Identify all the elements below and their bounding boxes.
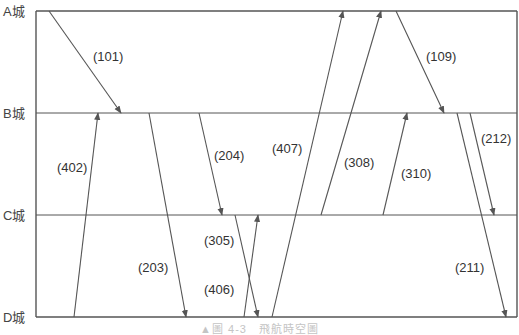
city-label: C城 [3, 208, 25, 223]
flight-label: (310) [401, 166, 431, 181]
city-label: A城 [3, 4, 25, 19]
flight-label: (204) [214, 148, 244, 163]
flight-label: (407) [272, 141, 302, 156]
flight-label: (402) [57, 160, 87, 175]
flight-path [272, 11, 343, 317]
flight-label: (203) [138, 260, 168, 275]
flight-label: (308) [344, 155, 374, 170]
flight-label: (305) [204, 233, 234, 248]
flight-label: (101) [93, 49, 123, 64]
figure-caption: ▲圖 4-3 飛航時空圖 [0, 320, 519, 335]
city-label: B城 [3, 106, 25, 121]
flight-time-space-diagram: A城B城C城D城(101)(402)(203)(204)(305)(406)(4… [0, 0, 519, 335]
flight-path [199, 113, 222, 215]
flight-path [470, 113, 494, 215]
flight-label: (212) [481, 131, 511, 146]
flight-label: (211) [455, 260, 484, 275]
flight-label: (406) [204, 282, 234, 297]
flight-path [383, 113, 407, 215]
flight-label: (109) [426, 49, 456, 64]
